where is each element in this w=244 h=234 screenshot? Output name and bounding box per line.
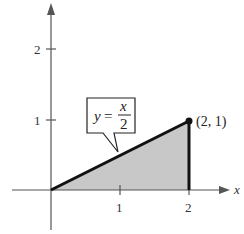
x-axis-label: x [233, 182, 240, 197]
equation-denominator: 2 [120, 116, 128, 132]
y-tick-label-2: 2 [34, 42, 41, 57]
x-tick-label-2: 2 [185, 200, 192, 215]
y-tick-label-1: 1 [34, 113, 41, 128]
callout-box [87, 98, 135, 152]
y-axis-arrow-icon [47, 3, 55, 15]
point-label: (2, 1) [196, 114, 227, 130]
equation-callout: y = x 2 [87, 98, 135, 152]
point-marker-icon [186, 118, 193, 125]
x-tick-label-1: 1 [116, 200, 123, 215]
equation-equals: = [104, 108, 112, 124]
x-axis-arrow-icon [219, 186, 230, 194]
equation-numerator: x [119, 98, 127, 114]
y-axis [47, 3, 55, 230]
diagram-canvas: 1 2 1 2 x (2, 1) y = x 2 [0, 0, 244, 234]
equation-lhs: y [92, 108, 101, 124]
